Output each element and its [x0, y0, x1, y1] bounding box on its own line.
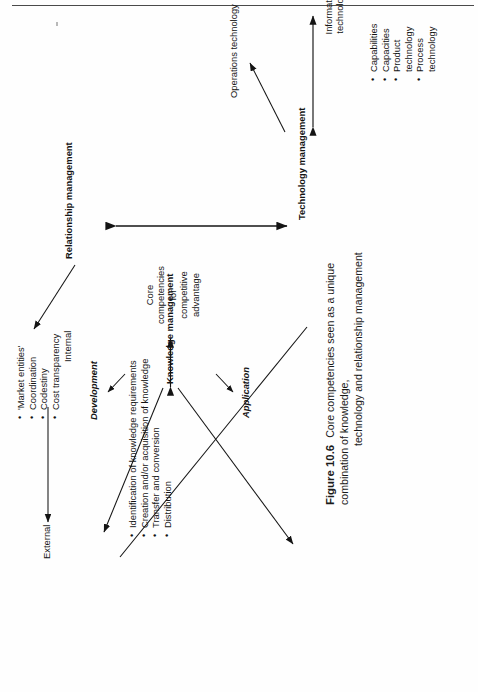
list-item: • Codestiny: [38, 334, 50, 419]
bullet-glyph: •: [391, 72, 403, 81]
bullet-glyph: •: [368, 72, 380, 81]
bullet-glyph: •: [414, 72, 426, 81]
bullet-glyph: •: [150, 528, 162, 537]
bullet-glyph: •: [380, 72, 392, 81]
list-item-label: Capacities: [380, 28, 392, 72]
list-item-label: Distribution: [162, 481, 174, 528]
bullet-glyph: •: [139, 528, 151, 537]
book-page: Knowledge management Development Applica…: [0, 0, 478, 692]
label-information-technology: Information technology: [323, 0, 346, 44]
list-item-label: 'Market entities': [15, 345, 27, 410]
list-item: • Cost transparency: [50, 334, 62, 419]
list-item: • Capacities: [380, 24, 392, 81]
list-item: • 'Market entities': [15, 334, 27, 419]
figure-caption: Figure 10.6Core competencies seen as a u…: [323, 205, 365, 505]
node-relationship-management: Relationship management: [63, 142, 74, 259]
list-item: • Distribution: [162, 359, 174, 537]
list-item-label: Capabilities: [368, 24, 380, 72]
label-external: External: [41, 525, 52, 559]
bullet-glyph: •: [38, 410, 50, 419]
list-item-label: Product technology: [391, 27, 414, 72]
figure-number: Figure 10.6: [324, 445, 336, 505]
figure-caption-line-2: technology and relationship management: [351, 205, 365, 446]
list-item: • Product technology: [391, 24, 414, 81]
list-item-label: Transfer and conversion: [150, 427, 162, 528]
figure-diagram: Knowledge management Development Applica…: [0, 0, 478, 692]
list-item: • Coordination: [27, 334, 39, 419]
label-development: Development: [88, 361, 99, 420]
list-item: • Process technology: [414, 24, 437, 81]
list-item-label: Coordination: [27, 357, 39, 410]
label-application: Application: [240, 367, 251, 418]
list-item: • Transfer and conversion: [150, 359, 162, 537]
relationship-bullet-list: • 'Market entities' • Coordination • Cod…: [15, 334, 61, 419]
technology-bullet-list: • Capabilities • Capacities • Product te…: [368, 24, 438, 81]
list-item: • Capabilities: [368, 24, 380, 81]
label-internal: Internal: [62, 331, 73, 362]
node-technology-management: Technology management: [296, 108, 307, 220]
list-item-label: Identification of knowledge requirements: [127, 360, 139, 528]
bullet-glyph: •: [50, 410, 62, 419]
list-item: • Identification of knowledge requiremen…: [127, 359, 139, 537]
bullet-glyph: •: [15, 410, 27, 419]
bullet-glyph: •: [27, 410, 39, 419]
list-item-label: Cost transparency: [50, 334, 62, 410]
label-operations-technology: Operations technology: [228, 4, 239, 98]
list-item-label: Process technology: [414, 27, 437, 72]
list-item-label: Creation and/or acquisition of knowledge: [139, 359, 151, 528]
knowledge-bullet-list: • Identification of knowledge requiremen…: [127, 359, 173, 537]
node-core-competencies: Core competencies for competitive advant…: [144, 258, 201, 332]
list-item: • Creation and/or acquisition of knowled…: [139, 359, 151, 537]
bullet-glyph: •: [127, 528, 139, 537]
list-item-label: Codestiny: [38, 368, 50, 410]
bullet-glyph: •: [162, 528, 174, 537]
